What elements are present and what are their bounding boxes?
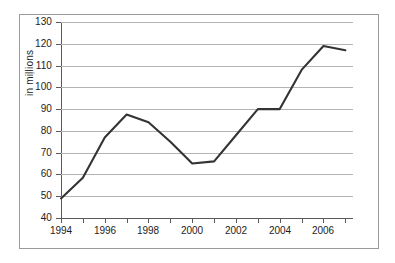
y-tick-label-60: 60 <box>0 169 52 179</box>
x-tick-label-1998: 1998 <box>137 226 159 236</box>
y-tick-label-110: 110 <box>0 61 52 71</box>
plot-area <box>61 22 353 218</box>
y-tick-label-40: 40 <box>0 213 52 223</box>
x-tick-label-2002: 2002 <box>225 226 247 236</box>
x-tick-label-1996: 1996 <box>94 226 116 236</box>
y-tick-label-90: 90 <box>0 104 52 114</box>
y-tick-label-100: 100 <box>0 82 52 92</box>
gridline-40 <box>61 218 353 219</box>
x-tick-label-2004: 2004 <box>269 226 291 236</box>
y-tick-label-130: 130 <box>0 17 52 27</box>
y-tick-label-70: 70 <box>0 148 52 158</box>
x-tick-label-1994: 1994 <box>50 226 72 236</box>
chart-figure: in millions 130120110100908070605040 199… <box>0 0 395 263</box>
y-tick-label-80: 80 <box>0 126 52 136</box>
x-tick-label-2000: 2000 <box>181 226 203 236</box>
artifact-speck <box>33 72 35 74</box>
x-tick-label-2006: 2006 <box>312 226 334 236</box>
data-series-line <box>61 22 353 218</box>
y-tick-label-50: 50 <box>0 191 52 201</box>
y-tick-label-120: 120 <box>0 39 52 49</box>
